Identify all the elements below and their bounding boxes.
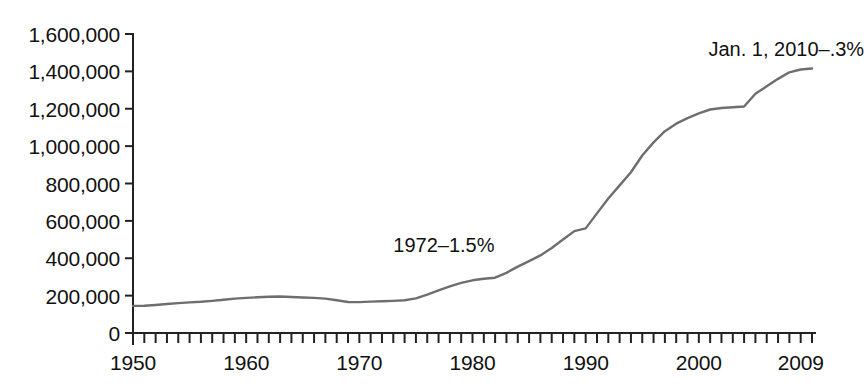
y-axis-tick-label: 800,000 <box>45 174 120 195</box>
y-axis-tick-label: 0 <box>109 323 120 344</box>
y-axis-tick-label: 1,400,000 <box>28 61 120 82</box>
y-axis-tick-label: 1,000,000 <box>28 136 120 157</box>
y-axis-tick-label: 1,600,000 <box>28 24 120 45</box>
x-axis-tick-label: 1980 <box>433 352 513 373</box>
x-axis-tick-label: 1960 <box>206 352 286 373</box>
x-axis-tick-label: 1970 <box>319 352 399 373</box>
data-series-line <box>133 69 812 306</box>
y-axis-tick-label: 600,000 <box>45 211 120 232</box>
y-axis-tick-label: 400,000 <box>45 248 120 269</box>
chart-annotation-label: Jan. 1, 2010–.3% <box>708 39 864 59</box>
x-axis-tick-label: 1950 <box>93 352 173 373</box>
y-axis-tick-label: 200,000 <box>45 286 120 307</box>
y-axis-tick-label: 1,200,000 <box>28 99 120 120</box>
chart-annotation-label: 1972–1.5% <box>393 235 494 255</box>
x-axis-tick-label: 1990 <box>546 352 626 373</box>
x-axis-tick-label: 2000 <box>659 352 739 373</box>
x-axis-tick-label: 2009 <box>761 352 841 373</box>
